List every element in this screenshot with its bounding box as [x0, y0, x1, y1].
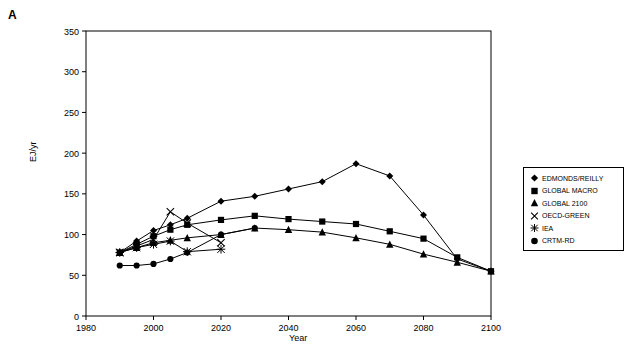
- legend-item: IEA: [528, 222, 620, 235]
- data-point: [251, 193, 258, 200]
- cross-marker-icon: [528, 210, 541, 222]
- y-tick-label: 150: [64, 189, 79, 199]
- data-point: [353, 160, 360, 167]
- data-point: [117, 262, 123, 268]
- data-point: [150, 261, 156, 267]
- data-point: [167, 256, 173, 262]
- x-tick-label: 2060: [346, 323, 366, 333]
- plot-border: [86, 31, 491, 316]
- series-line: [120, 216, 491, 271]
- y-tick-label: 350: [64, 27, 79, 37]
- data-point: [218, 231, 224, 237]
- legend-item-label: CRTM-RD: [542, 237, 575, 244]
- legend-item: GLOBAL MACRO: [528, 185, 620, 198]
- data-point: [167, 227, 173, 233]
- legend-item-label: OECD-GREEN: [542, 212, 589, 219]
- legend-item: EDMONDS/REILLY: [528, 172, 620, 185]
- circle-marker-icon: [528, 235, 541, 247]
- y-axis-title: EJ/yr: [28, 141, 38, 162]
- legend-item-label: EDMONDS/REILLY: [542, 175, 603, 182]
- data-point: [166, 237, 175, 246]
- triangle-marker-icon: [528, 197, 541, 209]
- series-line: [120, 228, 491, 271]
- data-point: [387, 228, 393, 234]
- legend-item-label: GLOBAL MACRO: [542, 187, 598, 194]
- data-point: [167, 208, 174, 215]
- data-point: [319, 218, 325, 224]
- data-point: [285, 216, 291, 222]
- y-tick-label: 100: [64, 230, 79, 240]
- x-tick-label: 2020: [211, 323, 231, 333]
- y-tick-label: 250: [64, 108, 79, 118]
- x-tick-label: 1980: [76, 323, 96, 333]
- y-tick-label: 300: [64, 67, 79, 77]
- data-point: [115, 248, 124, 257]
- legend-item: CRTM-RD: [528, 235, 620, 248]
- data-point: [353, 221, 359, 227]
- data-point: [134, 262, 140, 268]
- x-tick-label: 2000: [143, 323, 163, 333]
- legend-item-label: GLOBAL 2100: [542, 200, 587, 207]
- x-axis-title: Year: [289, 333, 307, 343]
- data-point: [218, 198, 225, 205]
- data-point: [150, 227, 157, 234]
- data-point: [218, 217, 224, 223]
- data-point: [420, 236, 426, 242]
- legend-item: OECD-GREEN: [528, 210, 620, 223]
- series-line: [120, 164, 491, 271]
- x-tick-label: 2040: [278, 323, 298, 333]
- legend-item-label: IEA: [542, 225, 553, 232]
- x-tick-label: 2080: [413, 323, 433, 333]
- data-point: [252, 225, 258, 231]
- data-point: [285, 185, 292, 192]
- y-tick-label: 50: [69, 271, 79, 281]
- data-point: [217, 245, 226, 254]
- legend: EDMONDS/REILLYGLOBAL MACROGLOBAL 2100OEC…: [523, 167, 624, 251]
- legend-item: GLOBAL 2100: [528, 197, 620, 210]
- data-point: [184, 249, 190, 255]
- x-tick-label: 2100: [481, 323, 501, 333]
- square-marker-icon: [528, 185, 541, 197]
- y-tick-label: 0: [74, 312, 79, 322]
- y-tick-label: 200: [64, 149, 79, 159]
- diamond-marker-icon: [528, 172, 541, 184]
- data-point: [319, 178, 326, 185]
- data-point: [252, 213, 258, 219]
- star-marker-icon: [528, 222, 541, 234]
- data-point: [132, 243, 141, 252]
- data-point: [149, 240, 158, 249]
